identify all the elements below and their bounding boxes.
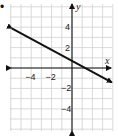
y-axis-label: y — [75, 1, 81, 12]
y-tick-label: −4 — [61, 104, 71, 114]
coordinate-graph: x y −4−242−2−4 — [0, 0, 118, 136]
x-tick-label: −4 — [25, 72, 35, 82]
y-tick-label: 2 — [65, 43, 70, 53]
y-tick-label: −2 — [61, 83, 71, 93]
y-tick-label: 4 — [65, 22, 70, 32]
x-axis-label: x — [104, 55, 110, 66]
x-tick-label: −2 — [46, 72, 56, 82]
